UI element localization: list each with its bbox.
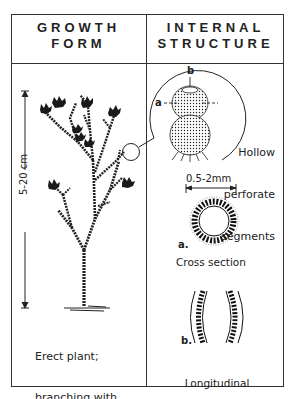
label-b: b [187, 64, 194, 77]
cross-section-marker: a. [178, 238, 189, 251]
height-scale-arrow [21, 91, 29, 308]
segment-caption: Hollow perforate segments [221, 118, 275, 258]
longitudinal-section-marker: b. [181, 334, 192, 347]
longitudinal-section-caption: Longitudinal section [177, 351, 257, 399]
label-a: a [155, 96, 162, 109]
cross-section-caption: Cross section [176, 256, 246, 269]
ground-line [64, 306, 110, 311]
caption-line: Hollow [221, 146, 275, 160]
growth-form-caption: Erect plant; branching with cylindrical … [35, 323, 117, 399]
diameter-label: 0.5-2mm [186, 172, 231, 185]
caption-line: perforate [221, 188, 275, 202]
plant-illustration [44, 95, 124, 306]
segment-detail [164, 77, 218, 162]
frond-tufts [40, 96, 135, 190]
longitudinal-section [191, 291, 244, 343]
caption-line: segments [221, 230, 275, 244]
height-label: 5-20 cm [17, 154, 30, 195]
caption-line: branching with [35, 391, 117, 399]
caption-line: Longitudinal [177, 377, 257, 390]
caption-line: Erect plant; [35, 350, 117, 364]
